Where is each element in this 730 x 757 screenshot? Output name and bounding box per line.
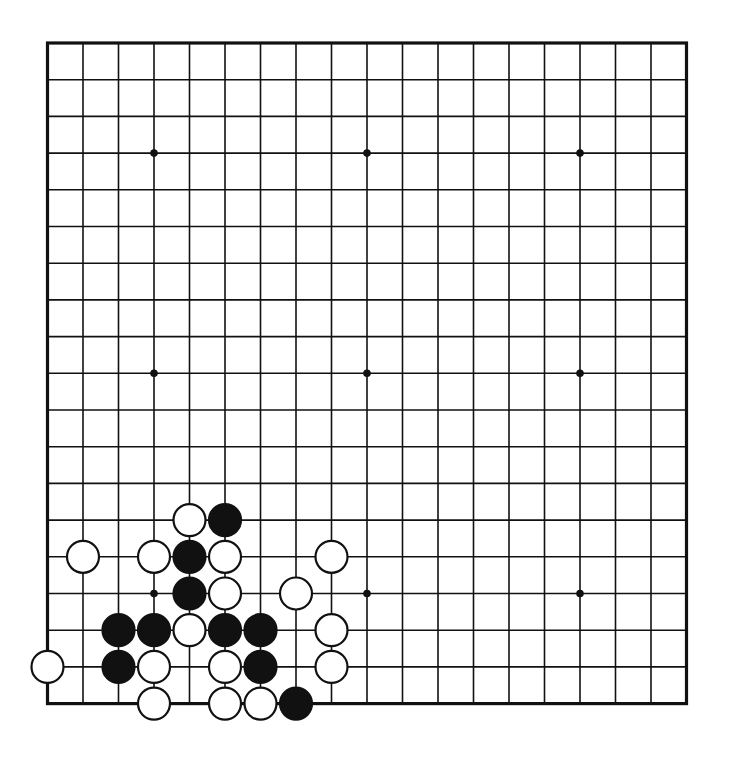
white-stone[interactable] xyxy=(209,651,241,683)
black-stone[interactable] xyxy=(103,651,135,683)
white-stone[interactable] xyxy=(138,541,170,573)
black-stone[interactable] xyxy=(174,541,206,573)
star-point-icon xyxy=(576,370,584,378)
star-point-icon xyxy=(576,590,584,598)
black-stone[interactable] xyxy=(280,688,312,720)
black-stone[interactable] xyxy=(103,614,135,646)
white-stone[interactable] xyxy=(245,688,277,720)
white-stone[interactable] xyxy=(316,541,348,573)
star-point-icon xyxy=(363,370,371,378)
white-stone[interactable] xyxy=(32,651,64,683)
black-stone[interactable] xyxy=(245,651,277,683)
star-point-icon xyxy=(150,149,158,157)
black-stone[interactable] xyxy=(245,614,277,646)
star-point-icon xyxy=(363,149,371,157)
white-stone[interactable] xyxy=(138,651,170,683)
go-board-canvas[interactable] xyxy=(0,0,730,757)
black-stone[interactable] xyxy=(138,614,170,646)
white-stone[interactable] xyxy=(209,688,241,720)
white-stone[interactable] xyxy=(209,578,241,610)
black-stone[interactable] xyxy=(209,504,241,536)
star-point-icon xyxy=(150,590,158,598)
white-stone[interactable] xyxy=(280,578,312,610)
white-stone[interactable] xyxy=(67,541,99,573)
go-board[interactable] xyxy=(0,0,730,757)
white-stone[interactable] xyxy=(316,651,348,683)
star-point-icon xyxy=(150,370,158,378)
star-point-icon xyxy=(363,590,371,598)
white-stone[interactable] xyxy=(209,541,241,573)
white-stone[interactable] xyxy=(316,614,348,646)
black-stone[interactable] xyxy=(174,578,206,610)
star-point-icon xyxy=(576,149,584,157)
white-stone[interactable] xyxy=(138,688,170,720)
white-stone[interactable] xyxy=(174,504,206,536)
black-stone[interactable] xyxy=(209,614,241,646)
white-stone[interactable] xyxy=(174,614,206,646)
